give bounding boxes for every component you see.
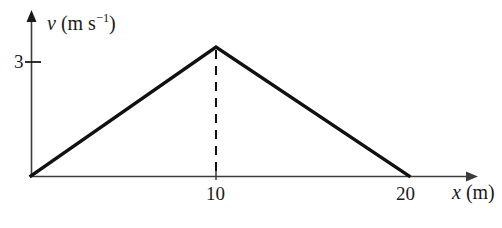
y-axis-unit-close: ) (109, 12, 116, 34)
x-axis-title: x (m) (452, 182, 495, 202)
y-axis-unit-open: (m s (61, 12, 96, 34)
y-axis-unit-exponent: −1 (96, 11, 109, 25)
y-axis-arrowhead (27, 10, 37, 22)
y-axis-variable: v (47, 12, 56, 34)
x-axis-arrowhead (466, 172, 478, 182)
x-tick-label-10: 10 (206, 184, 225, 203)
y-axis-title: v (m s−1) (47, 13, 116, 33)
velocity-position-graph-figure: v (m s−1) x (m) 3 10 20 (0, 0, 502, 228)
y-tick-label-3: 3 (14, 52, 24, 71)
x-axis-variable: x (452, 181, 461, 203)
plot-area (0, 0, 502, 228)
x-tick-label-20: 20 (396, 184, 415, 203)
x-axis-unit: (m) (466, 181, 495, 203)
velocity-curve (31, 47, 409, 176)
